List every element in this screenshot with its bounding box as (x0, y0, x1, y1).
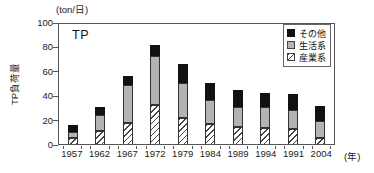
y-tick-label-0: 0 (22, 139, 53, 151)
legend-swatch-gray-icon (287, 41, 295, 49)
segment-産業系-1991 (288, 129, 298, 144)
x-tick-mark (81, 146, 82, 149)
y-tick-label-60: 60 (22, 66, 53, 78)
x-tick-label-1972: 1972 (141, 148, 169, 159)
x-tick-mark (303, 146, 304, 149)
bar-1957 (68, 125, 78, 145)
segment-生活系-1991 (288, 110, 298, 130)
legend: その他 生活系 産業系 (283, 24, 331, 67)
x-tick-mark (247, 146, 248, 149)
y-axis-unit-label: (ton/日) (56, 2, 88, 16)
x-tick-label-1957: 1957 (58, 148, 86, 159)
segment-その他-1957 (68, 125, 78, 132)
segment-その他-1994 (260, 93, 270, 108)
segment-生活系-1967 (123, 85, 133, 123)
y-tick-mark-100 (53, 23, 58, 24)
chart-title: TP (72, 28, 89, 42)
segment-産業系-1989 (233, 127, 243, 144)
y-tick-mark-20 (53, 120, 58, 121)
x-tick-label-2004: 2004 (307, 148, 335, 159)
x-tick-mark (220, 146, 221, 149)
segment-その他-2004 (315, 106, 325, 121)
segment-その他-1979 (178, 64, 188, 84)
x-tick-mark (136, 146, 137, 149)
segment-産業系-1984 (205, 124, 215, 144)
bar-1979 (178, 64, 188, 145)
bar-1972 (150, 45, 160, 144)
x-tick-label-1967: 1967 (113, 148, 141, 159)
legend-label-industrial: 産業系 (299, 51, 326, 64)
x-tick-mark (173, 146, 174, 149)
x-tick-mark (312, 146, 313, 149)
x-tick-label-1984: 1984 (197, 148, 225, 159)
bar-slot-1972 (142, 24, 170, 144)
segment-その他-1962 (95, 107, 105, 114)
segment-産業系-1962 (95, 131, 105, 144)
stacked-bar-chart-figure: (ton/日) TP負荷量 TP 19571962196719721979198… (0, 0, 374, 173)
x-tick-mark (63, 146, 64, 149)
segment-産業系-1957 (68, 138, 78, 144)
x-tick-mark (201, 146, 202, 149)
segment-生活系-2004 (315, 121, 325, 138)
bar-1994 (260, 93, 270, 144)
segment-産業系-1994 (260, 128, 270, 144)
segment-その他-1991 (288, 94, 298, 110)
bar-slot-1979 (169, 24, 197, 144)
y-tick-mark-80 (53, 47, 58, 48)
y-tick-label-20: 20 (22, 115, 53, 127)
x-tick-mark (284, 146, 285, 149)
legend-item-domestic: 生活系 (287, 39, 326, 51)
bar-slot-1989 (224, 24, 252, 144)
y-tick-label-100: 100 (22, 17, 53, 29)
segment-その他-1972 (150, 45, 160, 56)
x-tick-mark (192, 146, 193, 149)
x-tick-mark (109, 146, 110, 149)
bar-2004 (315, 106, 325, 144)
bar-1984 (205, 83, 215, 144)
x-tick-label-1994: 1994 (252, 148, 280, 159)
legend-item-industrial: 産業系 (287, 51, 326, 63)
x-tick-mark (275, 146, 276, 149)
segment-産業系-2004 (315, 138, 325, 144)
segment-産業系-1972 (150, 105, 160, 144)
bar-slot-1984 (197, 24, 225, 144)
x-axis-labels: 1957196219671972197919841989199419912004 (58, 148, 335, 159)
y-axis-title: TP負荷量 (7, 52, 19, 116)
bar-slot-1962 (87, 24, 115, 144)
bar-1962 (95, 107, 105, 144)
segment-産業系-1979 (178, 118, 188, 144)
x-tick-mark (90, 146, 91, 149)
bar-slot-1994 (252, 24, 280, 144)
y-tick-mark-40 (53, 96, 58, 97)
x-tick-label-1989: 1989 (224, 148, 252, 159)
x-tick-mark (146, 146, 147, 149)
segment-生活系-1984 (205, 100, 215, 124)
segment-その他-1989 (233, 90, 243, 107)
legend-item-other: その他 (287, 27, 326, 39)
segment-生活系-1994 (260, 107, 270, 128)
bar-1989 (233, 90, 243, 144)
x-tick-label-1979: 1979 (169, 148, 197, 159)
x-tick-label-1991: 1991 (280, 148, 308, 159)
segment-生活系-1979 (178, 83, 188, 118)
x-tick-mark (257, 146, 258, 149)
bar-slot-1967 (114, 24, 142, 144)
segment-生活系-1989 (233, 107, 243, 127)
segment-生活系-1972 (150, 56, 160, 105)
x-tick-mark (164, 146, 165, 149)
segment-産業系-1967 (123, 123, 133, 144)
y-tick-mark-60 (53, 71, 58, 72)
bar-1967 (123, 76, 133, 144)
segment-生活系-1962 (95, 115, 105, 131)
x-tick-mark (229, 146, 230, 149)
segment-その他-1967 (123, 76, 133, 86)
y-tick-label-80: 80 (22, 41, 53, 53)
x-tick-label-1962: 1962 (86, 148, 114, 159)
legend-swatch-hatched-icon (287, 53, 295, 61)
bar-slot-1957 (59, 24, 87, 144)
y-tick-mark-0 (53, 145, 58, 146)
segment-その他-1984 (205, 83, 215, 100)
x-tick-mark (118, 146, 119, 149)
x-tick-mark (330, 146, 331, 149)
y-tick-label-40: 40 (22, 90, 53, 102)
